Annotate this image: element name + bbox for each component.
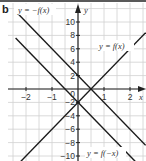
label-f-neg: y = f(−x) (86, 148, 118, 158)
label-f: y = f(x) (98, 41, 125, 51)
graph: −2−112108642−2−4−6−8−100 y = −f(x) y = f… (0, 0, 146, 161)
series-line (16, 33, 146, 161)
y-tick-label: −4 (65, 111, 75, 121)
grid (8, 3, 146, 161)
label-neg-f: y = −f(x) (17, 5, 49, 15)
y-tick-label: −8 (65, 138, 75, 148)
x-tick-label: 1 (102, 92, 107, 102)
x-tick-label: −1 (47, 92, 57, 102)
y-tick-label: 8 (70, 30, 75, 40)
y-tick-label: 2 (70, 71, 75, 81)
y-tick-label: −6 (65, 124, 75, 134)
y-tick-label: 10 (66, 17, 76, 27)
function-lines (16, 11, 146, 161)
x-tick-label: 2 (128, 92, 133, 102)
axes (8, 4, 146, 161)
y-tick-label: 4 (70, 57, 75, 67)
x-tick-label: −2 (21, 92, 31, 102)
y-tick-label: −10 (61, 151, 76, 161)
y-tick-label: 6 (70, 44, 75, 54)
x-axis-label: x (138, 92, 143, 102)
series-line (16, 11, 146, 145)
origin-label: 0 (70, 89, 75, 99)
y-axis-label: y (83, 5, 88, 15)
